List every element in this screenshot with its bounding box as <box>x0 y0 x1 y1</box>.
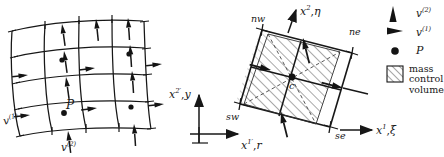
label-corner-nw: nw <box>251 14 265 24</box>
node-dot <box>126 51 131 56</box>
label-velocity-1-left: v(1) <box>2 113 19 126</box>
label-centre-c: c <box>289 81 295 91</box>
cone-arrow-right-icon <box>387 27 403 34</box>
label-corner-ne: ne <box>349 27 361 37</box>
hatched-square-icon <box>387 66 403 82</box>
legend-label-v2: v(2) <box>416 7 431 19</box>
label-point-P: P <box>66 99 74 111</box>
grid-tick-stubs <box>8 15 156 137</box>
label-corner-sw: sw <box>226 112 239 122</box>
legend-mcv-line2: control <box>409 74 444 84</box>
axis-label-x1prime-r: x1′,r <box>241 139 262 151</box>
node-dot <box>59 57 64 62</box>
filled-dot-icon <box>391 47 399 55</box>
legend-glyphs <box>387 6 403 82</box>
axis-label-x2prime-y: x2′,y <box>169 88 191 100</box>
right-panel-control-volume <box>190 10 372 143</box>
legend-label-mass-control-volume: mass control volume <box>409 64 444 95</box>
label-corner-se: se <box>335 131 346 141</box>
axis-label-x1-xi: x1,ξ <box>376 124 396 136</box>
velocity-1-arrows-left <box>12 61 164 119</box>
axis-label-x2-eta: x2,η <box>300 5 321 17</box>
velocity-2-arrows-left <box>59 18 138 153</box>
cone-arrow-up-icon <box>389 6 396 22</box>
grid-lines-horizontal <box>12 20 151 136</box>
left-panel-grid <box>8 15 164 153</box>
node-dot <box>128 104 133 109</box>
legend-mcv-line3: volume <box>409 85 444 95</box>
legend-label-P: P <box>416 45 423 57</box>
legend-label-v1: v(1) <box>416 26 431 38</box>
label-velocity-2-left: v(2) <box>61 141 76 152</box>
